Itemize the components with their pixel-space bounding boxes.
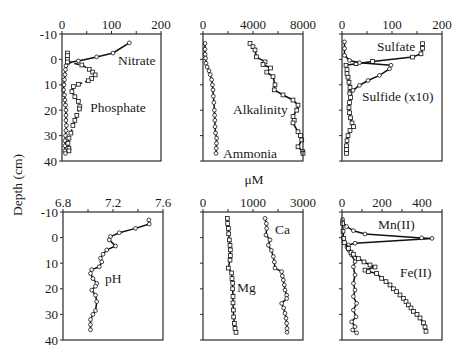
circle-marker-icon <box>420 236 424 240</box>
square-marker-icon <box>269 66 273 70</box>
square-marker-icon <box>66 54 70 58</box>
square-marker-icon <box>375 272 379 276</box>
circle-marker-icon <box>350 320 354 324</box>
series-annotation: Alkalinity <box>233 102 288 117</box>
square-marker-icon <box>226 222 230 226</box>
circle-marker-icon <box>285 330 289 334</box>
x-tick-label: 0 <box>200 17 207 32</box>
circle-marker-icon <box>91 277 95 281</box>
circle-marker-icon <box>264 233 268 237</box>
circle-marker-icon <box>285 321 289 325</box>
square-marker-icon <box>419 52 423 56</box>
circle-marker-icon <box>64 68 68 72</box>
square-marker-icon <box>371 60 375 64</box>
y-tick-label: -10 <box>41 205 58 220</box>
circle-marker-icon <box>352 229 356 233</box>
circle-marker-icon <box>100 260 104 264</box>
square-marker-icon <box>295 108 299 112</box>
square-marker-icon <box>352 252 356 256</box>
circle-marker-icon <box>203 52 207 56</box>
square-marker-icon <box>232 315 236 319</box>
square-marker-icon <box>261 63 265 67</box>
circle-marker-icon <box>285 327 289 331</box>
y-tick-label: 0 <box>52 230 59 245</box>
square-marker-icon <box>296 145 300 149</box>
circle-marker-icon <box>283 311 287 315</box>
circle-marker-icon <box>264 222 268 226</box>
x-tick-label: 7.6 <box>155 195 172 210</box>
circle-marker-icon <box>207 69 211 73</box>
square-marker-icon <box>231 287 235 291</box>
porewater-profiles-figure: 0100200-10010203040NitratePhosphate 0400… <box>0 0 460 354</box>
circle-marker-icon <box>363 232 367 236</box>
circle-marker-icon <box>214 131 218 135</box>
circle-marker-icon <box>345 225 349 229</box>
square-marker-icon <box>231 281 235 285</box>
square-marker-icon <box>228 248 232 252</box>
x-tick-label: 200 <box>151 17 171 32</box>
circle-marker-icon <box>284 316 288 320</box>
circle-marker-icon <box>281 278 285 282</box>
square-marker-icon <box>349 96 353 100</box>
circle-marker-icon <box>348 59 352 63</box>
circle-marker-icon <box>271 255 275 259</box>
square-marker-icon <box>75 113 79 117</box>
y-tick-label: 40 <box>45 333 58 348</box>
square-marker-icon <box>66 60 70 64</box>
circle-marker-icon <box>105 248 109 252</box>
y-tick-label: 40 <box>44 154 57 169</box>
circle-marker-icon <box>107 238 111 242</box>
square-marker-icon <box>347 106 351 110</box>
square-marker-icon <box>422 321 426 325</box>
square-marker-icon <box>228 258 232 262</box>
series-annotation: Nitrate <box>118 53 155 68</box>
circle-marker-icon <box>352 265 356 269</box>
square-marker-icon <box>418 316 422 320</box>
square-marker-icon <box>73 118 77 122</box>
circle-marker-icon <box>352 282 356 286</box>
circle-marker-icon <box>64 108 68 112</box>
square-marker-icon <box>345 139 349 143</box>
circle-marker-icon <box>378 74 382 78</box>
y-tick-label: -10 <box>40 27 57 42</box>
circle-marker-icon <box>353 288 357 292</box>
circle-marker-icon <box>63 98 67 102</box>
circle-marker-icon <box>358 83 362 87</box>
circle-marker-icon <box>94 309 98 313</box>
circle-marker-icon <box>63 93 67 97</box>
x-tick-label: 100 <box>382 17 402 32</box>
y-tick-label: 30 <box>44 128 57 143</box>
circle-marker-icon <box>89 272 93 276</box>
circle-marker-icon <box>65 124 69 128</box>
circle-marker-icon <box>147 218 151 222</box>
circle-marker-icon <box>211 88 215 92</box>
circle-marker-icon <box>204 61 208 65</box>
circle-marker-icon <box>282 306 286 310</box>
x-tick-label: 0 <box>339 195 346 210</box>
x-tick-label: 400 <box>412 195 432 210</box>
x-tick-label: 0 <box>339 17 346 32</box>
series-annotation: Phosphate <box>90 100 146 115</box>
square-marker-icon <box>71 124 75 128</box>
square-marker-icon <box>291 121 295 125</box>
circle-marker-icon <box>114 244 118 248</box>
circle-marker-icon <box>147 222 151 226</box>
square-marker-icon <box>362 260 366 264</box>
circle-marker-icon <box>204 56 208 60</box>
unit-label: μM <box>244 172 263 187</box>
circle-marker-icon <box>214 151 218 155</box>
square-marker-icon <box>291 98 295 102</box>
square-marker-icon <box>76 99 80 103</box>
circle-marker-icon <box>94 284 98 288</box>
circle-marker-icon <box>266 243 270 247</box>
circle-marker-icon <box>280 274 284 278</box>
circle-marker-icon <box>215 136 219 140</box>
circle-marker-icon <box>64 129 68 133</box>
x-tick-label: 1000 <box>240 195 266 210</box>
square-marker-icon <box>281 93 285 97</box>
x-tick-label: 3000 <box>290 195 316 210</box>
circle-marker-icon <box>343 53 347 57</box>
square-marker-icon <box>347 246 351 250</box>
circle-marker-icon <box>273 266 277 270</box>
circle-marker-icon <box>348 92 352 96</box>
